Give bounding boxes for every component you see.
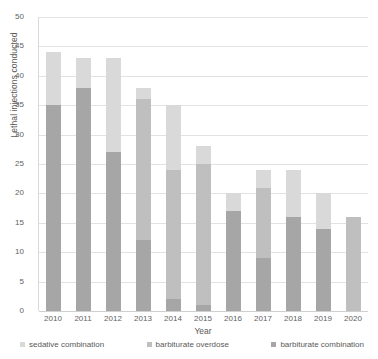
bar-stack[interactable] xyxy=(166,105,181,311)
bar-segment[interactable] xyxy=(166,299,181,311)
bar-segment[interactable] xyxy=(346,217,361,311)
bar-segment[interactable] xyxy=(196,305,211,311)
x-axis-tick-label: 2015 xyxy=(188,314,218,323)
legend-label: barbiturate overdose xyxy=(156,340,229,349)
bar-segment[interactable] xyxy=(196,164,211,305)
bar-segment[interactable] xyxy=(166,105,181,170)
y-axis-tick-label: 50 xyxy=(0,13,24,21)
legend-item[interactable]: barbiturate combination xyxy=(271,340,364,349)
y-axis-tick-label: 15 xyxy=(0,219,24,227)
stacked-bar-chart: Lethal injections conducted 051015202530… xyxy=(0,0,378,359)
bar-stack[interactable] xyxy=(76,58,91,311)
bar-group[interactable] xyxy=(98,17,128,311)
bar-stack[interactable] xyxy=(226,193,241,311)
legend-swatch-barbiturate-overdose xyxy=(147,342,152,347)
bar-stack[interactable] xyxy=(346,217,361,311)
bar-segment[interactable] xyxy=(136,99,151,240)
bar-stack[interactable] xyxy=(136,88,151,311)
bars-container xyxy=(38,17,368,311)
legend-label: barbiturate combination xyxy=(280,340,364,349)
bar-segment[interactable] xyxy=(46,105,61,311)
bar-segment[interactable] xyxy=(256,170,271,188)
legend-item[interactable]: barbiturate overdose xyxy=(147,340,229,349)
x-axis-tick-label: 2014 xyxy=(158,314,188,323)
bar-stack[interactable] xyxy=(46,52,61,311)
legend-swatch-sedative-combination xyxy=(20,342,25,347)
y-axis-tick-label: 5 xyxy=(0,278,24,286)
y-axis-tick-label: 35 xyxy=(0,101,24,109)
bar-segment[interactable] xyxy=(196,146,211,164)
gridline xyxy=(39,311,368,312)
x-axis-tick-label: 2016 xyxy=(218,314,248,323)
bar-group[interactable] xyxy=(248,17,278,311)
bar-stack[interactable] xyxy=(316,193,331,311)
bar-segment[interactable] xyxy=(46,52,61,105)
y-axis-tick-label: 10 xyxy=(0,248,24,256)
y-axis-tick-label: 0 xyxy=(0,307,24,315)
legend-swatch-barbiturate-combination xyxy=(271,342,276,347)
y-axis-tick-label: 25 xyxy=(0,160,24,168)
bar-segment[interactable] xyxy=(76,88,91,311)
x-axis-title: Year xyxy=(38,326,368,336)
bar-segment[interactable] xyxy=(76,58,91,87)
bar-segment[interactable] xyxy=(316,193,331,228)
bar-segment[interactable] xyxy=(316,229,331,311)
bar-group[interactable] xyxy=(158,17,188,311)
legend-item[interactable]: sedative combination xyxy=(20,340,104,349)
bar-stack[interactable] xyxy=(256,170,271,311)
x-axis-tick-label: 2018 xyxy=(278,314,308,323)
bar-segment[interactable] xyxy=(286,217,301,311)
x-axis-tick-labels: 2010201120122013201420152016201720182019… xyxy=(38,314,368,323)
bar-group[interactable] xyxy=(338,17,368,311)
y-axis-tick-label: 45 xyxy=(0,42,24,50)
bar-segment[interactable] xyxy=(286,170,301,217)
x-axis-tick-label: 2017 xyxy=(248,314,278,323)
bar-segment[interactable] xyxy=(256,188,271,259)
bar-group[interactable] xyxy=(188,17,218,311)
bar-group[interactable] xyxy=(278,17,308,311)
bar-stack[interactable] xyxy=(196,146,211,311)
x-axis-tick-label: 2020 xyxy=(338,314,368,323)
x-axis-tick-label: 2011 xyxy=(68,314,98,323)
bar-segment[interactable] xyxy=(136,88,151,100)
chart-legend: sedative combinationbarbiturate overdose… xyxy=(20,340,364,349)
y-axis-tick-label: 20 xyxy=(0,189,24,197)
x-axis-tick-label: 2010 xyxy=(38,314,68,323)
bar-segment[interactable] xyxy=(226,211,241,311)
y-axis-tick-label: 30 xyxy=(0,131,24,139)
legend-label: sedative combination xyxy=(29,340,104,349)
y-axis-tick-label: 40 xyxy=(0,72,24,80)
bar-segment[interactable] xyxy=(256,258,271,311)
bar-segment[interactable] xyxy=(226,193,241,211)
bar-segment[interactable] xyxy=(106,58,121,152)
bar-group[interactable] xyxy=(308,17,338,311)
bar-segment[interactable] xyxy=(166,170,181,299)
x-axis-tick-label: 2013 xyxy=(128,314,158,323)
bar-group[interactable] xyxy=(38,17,68,311)
y-axis-title: Lethal injections conducted xyxy=(9,0,19,185)
x-axis-tick-label: 2019 xyxy=(308,314,338,323)
bar-stack[interactable] xyxy=(106,58,121,311)
bar-segment[interactable] xyxy=(136,240,151,311)
bar-group[interactable] xyxy=(68,17,98,311)
x-axis-tick-label: 2012 xyxy=(98,314,128,323)
bar-segment[interactable] xyxy=(106,152,121,311)
bar-stack[interactable] xyxy=(286,170,301,311)
bar-group[interactable] xyxy=(218,17,248,311)
bar-group[interactable] xyxy=(128,17,158,311)
